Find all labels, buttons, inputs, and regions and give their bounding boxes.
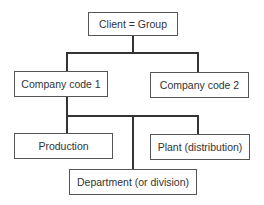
node-client-group: Client = Group [88, 12, 178, 36]
connector-level1-horizontal [66, 52, 198, 54]
connector-to-company-code-2 [197, 52, 199, 72]
node-label: Company code 1 [21, 78, 100, 90]
node-label: Department (or division) [77, 176, 189, 188]
node-company-code-1: Company code 1 [14, 71, 108, 97]
connector-to-plant [197, 115, 199, 134]
node-label: Plant (distribution) [158, 141, 243, 153]
node-label: Production [38, 140, 88, 152]
connector-to-department [132, 115, 134, 169]
node-label: Company code 2 [160, 79, 239, 91]
node-company-code-2: Company code 2 [150, 72, 249, 98]
connector-to-company-code-1 [66, 52, 68, 71]
node-label: Client = Group [99, 18, 167, 30]
connector-root-down [132, 35, 134, 52]
node-department-division: Department (or division) [69, 169, 197, 195]
connector-to-production [66, 115, 68, 133]
connector-company-code-1-down [66, 97, 68, 115]
node-production: Production [14, 133, 113, 159]
node-plant-distribution: Plant (distribution) [150, 134, 250, 160]
